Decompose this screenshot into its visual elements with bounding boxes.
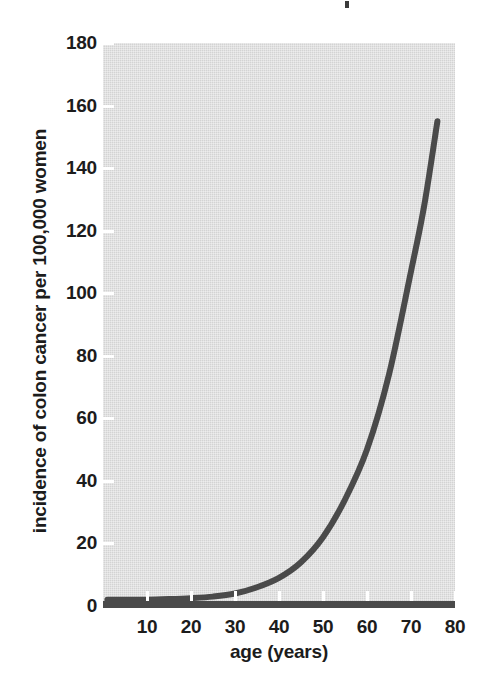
y-tick-160: [103, 105, 114, 108]
y-tick-140: [103, 167, 114, 170]
plot-area: [103, 43, 455, 606]
y-tick-20: [103, 542, 114, 545]
curve-svg: [103, 43, 455, 606]
x-tick-80: [454, 591, 457, 601]
x-tick-60: [366, 591, 369, 601]
y-tick-120: [103, 230, 114, 233]
x-tick-10: [146, 591, 149, 601]
x-tick-30: [234, 591, 237, 601]
chart-figure: 020406080100120140160180 102030405060708…: [0, 0, 490, 678]
y-tick-40: [103, 480, 114, 483]
y-tick-60: [103, 417, 114, 420]
incidence-curve: [107, 121, 437, 600]
x-tick-70: [410, 591, 413, 601]
x-axis-baseline: [103, 601, 455, 608]
x-tick-40: [278, 591, 281, 601]
x-tick-50: [322, 591, 325, 601]
x-tick-label-80: 80: [425, 617, 485, 636]
y-tick-80: [103, 355, 114, 358]
y-tick-100: [103, 292, 114, 295]
y-tick-180: [103, 42, 114, 45]
x-tick-20: [190, 591, 193, 601]
y-axis-title: incidence of colon cancer per 100,000 wo…: [29, 46, 51, 616]
top-artifact-speck: [345, 1, 349, 8]
x-axis-title: age (years): [103, 641, 455, 663]
